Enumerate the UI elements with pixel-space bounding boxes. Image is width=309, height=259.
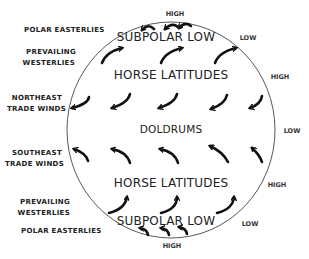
zone-north-horse-latitudes: HORSE LATITUDES [114,68,228,82]
zone-doldrums: DOLDRUMS [140,123,203,135]
zone-north-subpolar-low: SUBPOLAR LOW [117,30,216,44]
wind-arrow-southeast-trades-2 [112,149,130,163]
wind-arrow-southeast-trades-5 [252,148,262,162]
zone-south-horse-latitudes: HORSE LATITUDES [114,176,228,190]
pressure-north-horse: HIGH [271,73,290,81]
wind-arrow-northeast-trades-5 [250,96,262,108]
label-north-westerlies-2: WESTERLIES [20,58,75,68]
wind-arrow-north-westerlies-3 [215,48,236,63]
wind-arrow-south-polar-3 [179,227,187,234]
wind-arrow-north-polar-2 [165,25,178,29]
label-northeast-trades-2: TRADE WINDS [4,104,66,114]
wind-arrow-north-westerlies-2 [161,48,182,63]
label-south-westerlies-1: PREVAILING [14,197,70,207]
wind-arrow-southeast-trades-3 [160,149,178,163]
label-southeast-trades-1: SOUTHEAST [4,148,62,158]
pressure-equator: LOW [284,127,301,135]
pressure-north-pole: HIGH [166,10,185,18]
pressure-south-pole: HIGH [163,242,182,250]
label-south-polar-easterlies: POLAR EASTERLIES [21,226,102,236]
label-southeast-trades-2: TRADE WINDS [4,159,64,169]
wind-arrow-south-westerlies-3 [217,197,234,213]
wind-arrow-north-polar-3 [179,24,191,28]
label-north-polar-easterlies: POLAR EASTERLIES [24,25,105,35]
wind-arrow-northeast-trades-2 [112,94,130,108]
wind-arrow-south-westerlies-1 [109,197,127,213]
zone-south-subpolar-low: SUBPOLAR LOW [117,214,216,228]
wind-arrow-northeast-trades-4 [211,95,227,109]
wind-arrow-south-westerlies-2 [161,197,177,213]
wind-arrow-south-polar-2 [161,228,169,235]
wind-arrow-north-westerlies-1 [102,48,122,63]
wind-arrow-northeast-trades-1 [72,97,89,108]
label-northeast-trades-1: NORTHEAST [4,93,62,103]
pressure-south-horse: HIGH [268,181,287,189]
pressure-north-subpolar: LOW [240,34,257,42]
wind-arrow-southeast-trades-4 [210,146,228,162]
pressure-south-subpolar: LOW [242,220,259,228]
label-south-westerlies-2: WESTERLIES [14,208,70,218]
wind-arrow-southeast-trades-1 [74,149,88,161]
label-north-westerlies-1: PREVAILING [20,47,76,57]
wind-arrow-northeast-trades-3 [159,94,177,108]
